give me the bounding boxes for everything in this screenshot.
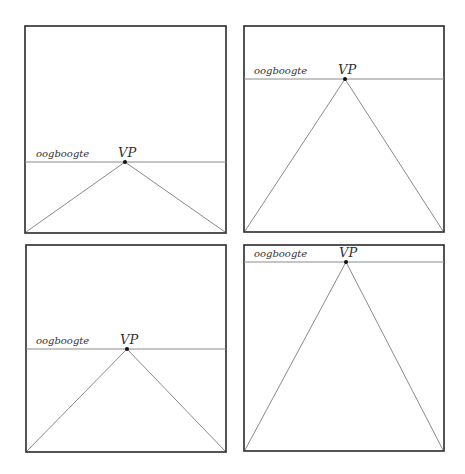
perspective-diagram: oogboogte VP oogboogte VP oogboogte VP o… bbox=[0, 0, 465, 474]
vanishing-point bbox=[343, 77, 347, 81]
panel-bottom-left: oogboogte VP bbox=[26, 245, 226, 452]
vp-label: VP bbox=[120, 332, 138, 347]
panel-top-left: oogboogte VP bbox=[25, 26, 226, 233]
vanishing-point bbox=[125, 347, 129, 351]
horizon-label: oogboogte bbox=[254, 248, 307, 259]
vanishing-point bbox=[123, 160, 127, 164]
horizon-label: oogboogte bbox=[36, 335, 89, 346]
panel-bottom-right: oogboogte VP bbox=[244, 245, 444, 451]
vp-label: VP bbox=[339, 245, 357, 260]
vp-label: VP bbox=[338, 62, 356, 77]
panel-frame bbox=[25, 26, 226, 233]
panel-frame bbox=[244, 245, 444, 451]
panel-frame bbox=[244, 26, 444, 232]
vanishing-point bbox=[344, 260, 348, 264]
panel-top-right: oogboogte VP bbox=[244, 26, 444, 232]
vp-label: VP bbox=[118, 145, 136, 160]
horizon-label: oogboogte bbox=[36, 148, 89, 159]
horizon-label: oogboogte bbox=[254, 65, 307, 76]
